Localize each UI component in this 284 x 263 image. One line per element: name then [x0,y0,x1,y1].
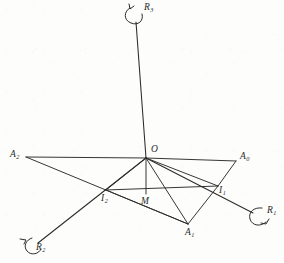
point-label-i2: I2 [101,194,108,204]
rotation-arrow-r2-head [20,239,26,244]
edge-o-i2 [106,158,146,190]
axis-lines [38,22,253,243]
rotation-arrow-r3 [125,8,142,24]
edge-o-a2 [26,157,146,158]
edge-o-a0 [146,158,236,161]
body-edges [26,157,236,224]
axis-label-r3: R3 [144,3,153,13]
rotation-arrow-r3-head [129,4,134,9]
edge-a1-i1 [188,186,218,224]
point-label-a1: A1 [185,228,194,238]
rotation-arrow-r1 [250,208,266,225]
axis-label-r1: R1 [267,206,276,216]
point-label-a2: A2 [10,150,19,160]
point-label-a0: A0 [240,152,249,162]
point-label-m: M [141,197,149,207]
edge-o-a1 [146,158,188,224]
point-label-origin: O [151,145,158,155]
axis-line-r3 [136,22,146,158]
edge-o-i1 [146,158,218,186]
diagram-canvas [0,0,284,263]
point-label-i1: I1 [219,186,226,196]
rotation-arrows [20,4,269,254]
edge-i2-i1 [106,186,218,190]
axis-label-r2: R2 [36,243,45,253]
axis-line-r1 [146,158,253,213]
edge-a0-i1 [218,161,236,186]
diagram-figure: R3 R1 R2 O A0 A1 A2 I1 I2 M [0,0,284,263]
